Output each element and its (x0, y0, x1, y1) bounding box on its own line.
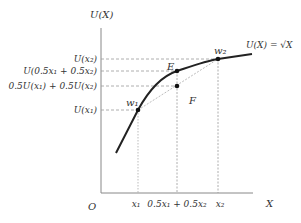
point-e (175, 69, 180, 74)
y-tick-expected-u: 0.5U(x₁) + 0.5U(x₂) (9, 81, 98, 91)
label-e: E (166, 61, 175, 72)
curve-label: U(X) = √X (246, 40, 293, 50)
x-axis-label: X (265, 198, 274, 209)
y-tick-u-x2: U(x₂) (74, 54, 98, 64)
label-w2: w₂ (214, 45, 227, 56)
label-f: F (188, 95, 197, 106)
y-axis-label: U(X) (90, 9, 113, 20)
utility-diagram: U(X) X O U(x₂) U(0.5x₁ + 0.5x₂) 0.5U(x₁)… (0, 0, 301, 223)
point-w1 (136, 108, 141, 113)
origin-label: O (88, 201, 96, 212)
y-tick-u-x1: U(x₁) (74, 105, 98, 115)
point-w2 (216, 57, 221, 62)
x-tick-x2: x₂ (216, 199, 225, 209)
point-f (175, 84, 180, 89)
label-w1: w₁ (126, 97, 139, 108)
x-tick-mid: 0.5x₁ + 0.5x₂ (147, 199, 207, 209)
x-tick-x1: x₁ (132, 199, 141, 209)
y-tick-u-mid: U(0.5x₁ + 0.5x₂) (23, 66, 97, 76)
